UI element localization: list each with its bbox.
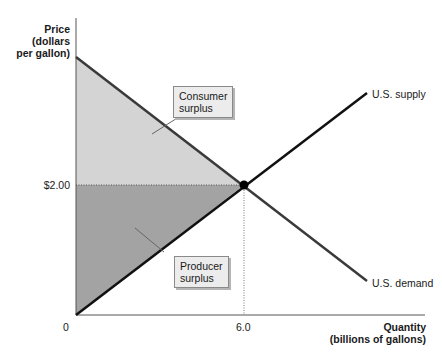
x-tick-label: 6.0 <box>236 321 251 333</box>
consumer-surplus-callout: Consumer surplus <box>173 86 233 118</box>
producer-surplus-line1: Producer <box>180 260 223 272</box>
demand-label: U.S. demand <box>372 277 433 289</box>
x-axis-title-line1: Quantity <box>300 321 426 333</box>
consumer-surplus-line2: surplus <box>179 102 227 114</box>
supply-label: U.S. supply <box>372 88 426 100</box>
y-axis-title-line1: Price <box>14 23 70 35</box>
y-tick-label: $2.00 <box>22 179 70 191</box>
equilibrium-point <box>240 181 249 190</box>
y-axis-title-line2: (dollars <box>14 35 70 47</box>
x-axis-title: Quantity (billions of gallons) <box>300 321 426 345</box>
producer-surplus-line2: surplus <box>180 272 223 284</box>
origin-label: 0 <box>63 321 69 333</box>
y-axis-title: Price (dollars per gallon) <box>14 23 70 59</box>
y-axis-title-line3: per gallon) <box>14 47 70 59</box>
consumer-surplus-line1: Consumer <box>179 90 227 102</box>
producer-surplus-callout: Producer surplus <box>174 256 229 288</box>
x-axis-title-line2: (billions of gallons) <box>300 333 426 345</box>
